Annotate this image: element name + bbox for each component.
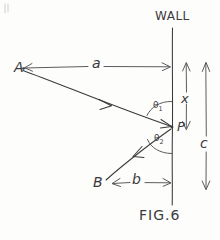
distance-b-arrow xyxy=(112,179,171,187)
angle-theta2-subscript: 2 xyxy=(160,138,164,146)
point-b-label: B xyxy=(93,175,103,189)
angle-theta2-label: θ2 xyxy=(154,134,164,145)
point-p-marker xyxy=(171,126,174,129)
angle-theta1-label: θ1 xyxy=(153,101,163,112)
point-p-label: P xyxy=(177,120,185,133)
figure-caption: FIG.6 xyxy=(139,208,180,222)
distance-a-label: a xyxy=(92,56,101,70)
angle-theta1-subscript: 1 xyxy=(159,105,163,113)
point-a-label: A xyxy=(14,60,24,74)
wall-label: WALL xyxy=(155,10,190,22)
page-corner-smudge xyxy=(5,4,8,13)
distance-b-label: b xyxy=(132,172,141,186)
distance-x-label: x xyxy=(181,92,189,105)
distance-c-label: c xyxy=(200,136,208,150)
ray-a-to-p xyxy=(23,71,172,129)
figure-drawing xyxy=(0,0,220,240)
dimension-c-arrow xyxy=(202,62,210,190)
figure-canvas: WALL A B P a b c x θ1 θ2 FIG.6 xyxy=(0,0,220,240)
